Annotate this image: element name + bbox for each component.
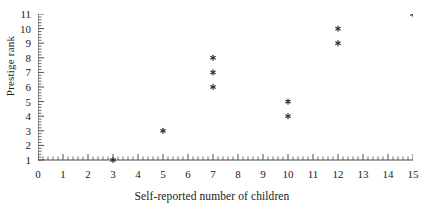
y-tick-label: 3 — [11, 125, 31, 137]
data-point-marker — [211, 84, 216, 89]
y-tick-label: 9 — [11, 37, 31, 49]
x-tick-label: 2 — [85, 168, 91, 180]
y-tick-label: 6 — [11, 81, 31, 93]
y-tick-label: 4 — [11, 110, 31, 122]
x-tick-label: 9 — [260, 168, 266, 180]
x-tick-label: 6 — [185, 168, 191, 180]
x-axis-title: Self-reported number of children — [0, 190, 424, 202]
data-point-marker — [336, 41, 341, 46]
x-tick-label: 1 — [60, 168, 66, 180]
x-tick-label: 13 — [358, 168, 369, 180]
y-tick-label: 5 — [11, 96, 31, 108]
x-tick-label: 0 — [35, 168, 41, 180]
data-point-marker — [411, 14, 413, 17]
x-tick-label: 3 — [110, 168, 116, 180]
data-point-marker — [211, 55, 216, 60]
plot-canvas — [38, 14, 413, 164]
x-tick-label: 11 — [308, 168, 319, 180]
y-axis-ticks — [38, 14, 44, 160]
x-tick-label: 8 — [235, 168, 241, 180]
axis-lines — [38, 14, 413, 160]
data-point-marker — [286, 99, 291, 104]
data-point-marker — [286, 114, 291, 119]
x-tick-label: 12 — [333, 168, 344, 180]
data-point-marker — [211, 70, 216, 75]
x-axis-ticks — [38, 154, 413, 160]
x-tick-label: 5 — [160, 168, 166, 180]
x-tick-label: 10 — [283, 168, 294, 180]
x-tick-label: 7 — [210, 168, 216, 180]
y-tick-label: 2 — [11, 139, 31, 151]
data-point-marker — [336, 26, 341, 31]
x-tick-label: 4 — [135, 168, 141, 180]
x-tick-label: 15 — [408, 168, 419, 180]
data-points — [111, 14, 413, 163]
y-tick-label: 7 — [11, 66, 31, 78]
y-tick-label: 8 — [11, 52, 31, 64]
plot-area — [38, 14, 413, 160]
x-tick-label: 14 — [383, 168, 394, 180]
y-tick-label: 11 — [11, 8, 31, 20]
data-point-marker — [161, 128, 166, 133]
y-tick-label: 10 — [11, 23, 31, 35]
y-tick-label: 1 — [11, 154, 31, 166]
scatter-plot-figure: Prestige rank Self-reported number of ch… — [0, 0, 424, 211]
